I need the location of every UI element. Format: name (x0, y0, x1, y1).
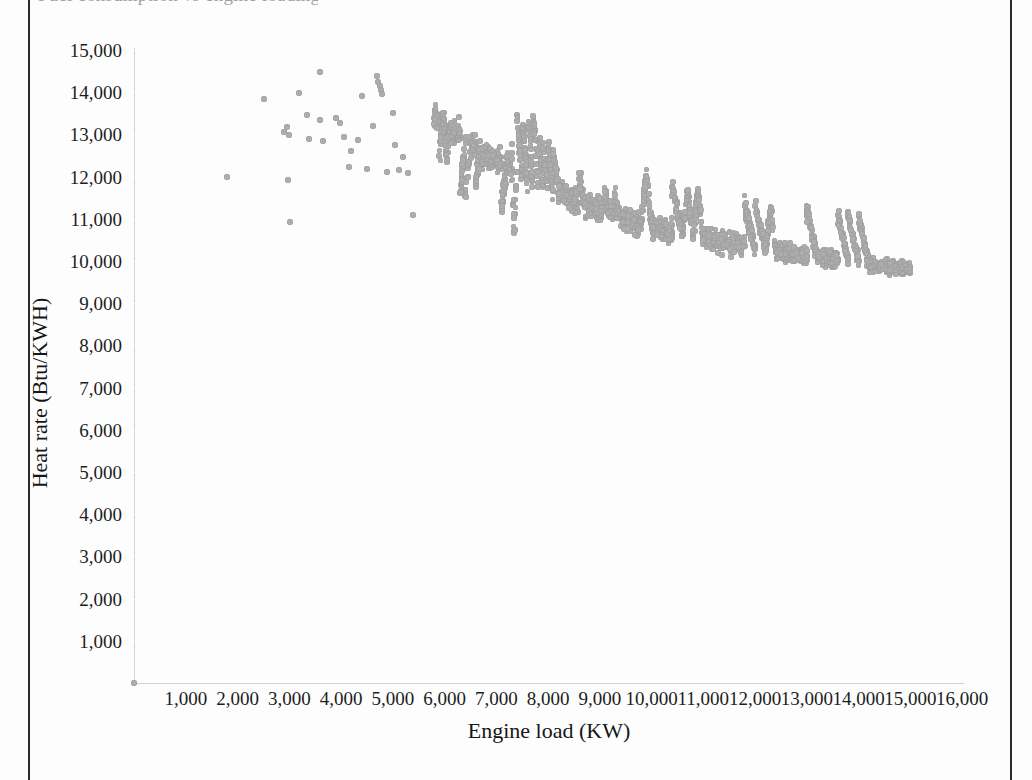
scatter-point (742, 193, 747, 198)
scatter-point (873, 269, 878, 274)
gridline-vertical (238, 50, 239, 683)
scatter-point (374, 73, 380, 79)
scatter-point (285, 177, 291, 183)
scatter-point (763, 242, 768, 247)
scatter-point (509, 141, 515, 147)
gridline-horizontal (134, 599, 962, 600)
y-tick-label: 8,000 (79, 336, 122, 355)
scatter-point (711, 247, 716, 252)
scatter-point (550, 197, 555, 202)
scatter-point (767, 209, 772, 214)
gridline-horizontal (134, 303, 962, 304)
gridline-vertical (859, 50, 860, 683)
x-tick-label: 12,000 (729, 688, 781, 710)
scatter-point (677, 225, 683, 231)
scatter-point (833, 252, 839, 258)
scatter-point (858, 222, 863, 227)
gridline-vertical (807, 50, 808, 683)
scatter-point (727, 246, 733, 252)
gridline-vertical (703, 50, 704, 683)
y-tick-label: 11,000 (70, 210, 122, 229)
scatter-point (359, 93, 365, 99)
y-tick-label: 14,000 (70, 83, 122, 102)
scatter-point (566, 205, 572, 211)
y-tick-label: 10,000 (70, 252, 122, 271)
y-tick-label: 12,000 (70, 168, 122, 187)
gridline-horizontal (134, 92, 962, 93)
scatter-point (650, 224, 656, 230)
scatter-point (744, 209, 749, 214)
scatter-point (465, 174, 471, 180)
scatter-point (296, 90, 302, 96)
scatter-point (861, 235, 867, 241)
gridline-horizontal (134, 472, 962, 473)
scatter-point (770, 228, 775, 233)
scatter-point (644, 167, 649, 172)
y-tick-label: 6,000 (79, 421, 122, 440)
scatter-point (616, 208, 621, 213)
y-tick-label: 1,000 (79, 632, 122, 651)
scatter-point (556, 200, 561, 205)
scatter-point (410, 212, 416, 218)
scatter-point (856, 211, 862, 217)
scatter-point (649, 219, 654, 224)
scatter-point (438, 158, 443, 163)
scatter-point (463, 194, 469, 200)
scatter-point (842, 248, 848, 254)
scatter-point (337, 120, 343, 126)
scatter-point (679, 234, 684, 239)
scatter-point (762, 250, 768, 256)
scatter-point (525, 189, 530, 194)
y-tick-label: 9,000 (79, 294, 122, 313)
scatter-point (513, 205, 518, 210)
scatter-point (612, 192, 618, 198)
scatter-point (533, 137, 538, 142)
gridline-vertical (186, 50, 187, 683)
scatter-point (529, 154, 534, 159)
scatter-point (820, 259, 825, 264)
scatter-point (893, 263, 898, 268)
scatter-point (608, 203, 614, 209)
y-axis-tick-labels: 1,0002,0003,0004,0005,0006,0007,0008,000… (0, 0, 122, 780)
scatter-point (516, 133, 521, 138)
gridline-horizontal (134, 514, 962, 515)
scatter-point (286, 132, 292, 138)
gridline-horizontal (134, 345, 962, 346)
scatter-point (541, 156, 546, 161)
gridline-vertical (289, 50, 290, 683)
scatter-point (284, 124, 290, 130)
scatter-point (793, 250, 799, 256)
scatter-point (317, 117, 323, 123)
y-tick-label: 7,000 (79, 379, 122, 398)
scatter-point (306, 136, 312, 142)
scatter-point (536, 151, 542, 157)
scatter-point (690, 236, 696, 242)
scatter-point (396, 167, 402, 173)
scatter-point (698, 219, 704, 225)
scatter-point (519, 167, 524, 172)
scatter-point (355, 137, 361, 143)
scatter-point (364, 166, 370, 172)
scatter-point (459, 177, 465, 183)
scatter-point (690, 228, 695, 233)
scatter-point (787, 246, 792, 251)
scatter-point (540, 183, 545, 188)
y-axis-title: Heat rate (Btu/KWH) (27, 183, 53, 603)
gridline-horizontal (134, 388, 962, 389)
scatter-point (320, 138, 326, 144)
scatter-point (461, 146, 467, 152)
scatter-point (746, 215, 752, 221)
x-tick-label: 8,000 (527, 688, 570, 710)
y-axis-line (134, 48, 135, 684)
scatter-point (370, 123, 376, 129)
x-axis-line (134, 683, 964, 684)
scatter-point (669, 215, 675, 221)
scatter-point (472, 132, 478, 138)
gridline-vertical (962, 50, 963, 683)
scatter-point (689, 218, 694, 223)
y-tick-label: 4,000 (79, 505, 122, 524)
scatter-point (642, 184, 648, 190)
scatter-point (845, 261, 851, 267)
scatter-point (674, 201, 679, 206)
gridline-vertical (910, 50, 911, 683)
